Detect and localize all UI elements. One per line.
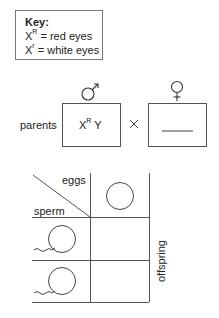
male-genotype: XR Y [79,119,102,131]
punnett-grid [32,173,150,303]
eggs-label: eggs [62,174,86,186]
cross-icon [130,120,138,128]
male-symbol-icon [82,84,98,100]
diagram-lines [0,0,219,318]
sperm-icon [34,226,76,253]
egg-icon [107,183,134,210]
sperm-icon [34,268,76,295]
sperm-label: sperm [34,205,65,217]
female-genotype-box [149,104,207,147]
female-symbol-icon [172,82,183,102]
offspring-label: offspring [155,236,167,286]
